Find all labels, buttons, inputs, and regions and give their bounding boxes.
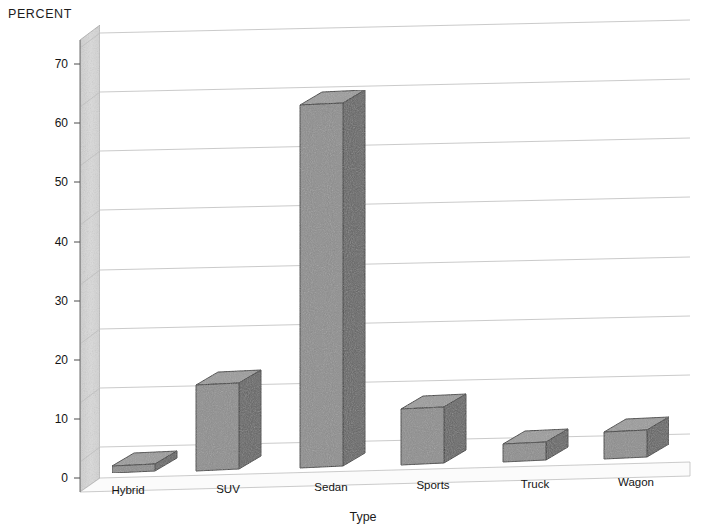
y-tick-label-0: 0 bbox=[61, 471, 68, 485]
bar-front-face bbox=[300, 103, 343, 468]
x-tick-label-suv: SUV bbox=[216, 483, 240, 495]
chart-canvas: 0 10 20 30 40 50 60 70 bbox=[0, 0, 701, 526]
bar-suv bbox=[196, 370, 261, 471]
y-tick-label-40: 40 bbox=[55, 235, 69, 249]
bar-sedan bbox=[300, 90, 365, 468]
x-tick-label-truck: Truck bbox=[521, 478, 550, 490]
y-axis: 0 10 20 30 40 50 60 70 bbox=[55, 40, 80, 492]
y-tick-label-60: 60 bbox=[55, 116, 69, 130]
x-tick-label-hybrid: Hybrid bbox=[111, 484, 144, 496]
x-tick-label-sports: Sports bbox=[416, 479, 449, 491]
y-tick-label-50: 50 bbox=[55, 175, 69, 189]
bar-sports bbox=[401, 394, 466, 465]
x-tick-label-wagon: Wagon bbox=[618, 476, 654, 488]
y-axis-title: PERCENT bbox=[8, 7, 72, 21]
bar-front-face bbox=[604, 430, 647, 459]
bar-front-face bbox=[503, 442, 546, 462]
back-wall bbox=[100, 12, 690, 478]
x-axis-title: Type bbox=[349, 510, 376, 524]
y-tick-label-70: 70 bbox=[55, 57, 69, 71]
y-tick-label-20: 20 bbox=[55, 353, 69, 367]
bar-front-face bbox=[112, 464, 155, 473]
bar-front-face bbox=[196, 383, 239, 471]
bar-front-face bbox=[401, 407, 444, 465]
y-tick-label-30: 30 bbox=[55, 294, 69, 308]
left-wall-3d bbox=[80, 25, 100, 492]
y-axis-ticks bbox=[74, 64, 80, 478]
x-tick-label-sedan: Sedan bbox=[314, 481, 347, 493]
y-tick-label-10: 10 bbox=[55, 412, 69, 426]
plot-area bbox=[80, 12, 690, 492]
bar-side-face bbox=[239, 370, 261, 469]
bar-side-face bbox=[343, 90, 365, 466]
bar-chart: 0 10 20 30 40 50 60 70 bbox=[0, 0, 701, 526]
